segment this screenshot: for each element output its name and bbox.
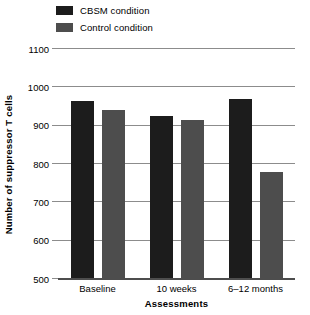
bar — [229, 99, 252, 279]
y-tick-label: 500 — [33, 274, 49, 284]
bar — [71, 101, 94, 279]
y-tick-label: 800 — [33, 159, 49, 169]
bar-series-container — [58, 49, 295, 279]
legend-swatch-control — [56, 23, 73, 32]
legend-item-label: Control condition — [80, 22, 153, 33]
bar — [102, 110, 125, 279]
legend-item: CBSM condition — [56, 2, 256, 19]
y-tick-label: 600 — [33, 236, 49, 246]
y-tick-label: 700 — [33, 198, 49, 208]
legend-swatch-cbsm — [56, 6, 73, 15]
y-tick-label: 1100 — [29, 44, 49, 54]
legend-item: Control condition — [56, 19, 256, 36]
plot-area: 50060070080090010001100 — [58, 49, 295, 279]
y-tick-label: 1000 — [28, 83, 49, 93]
bar — [150, 116, 173, 279]
bar — [181, 120, 204, 279]
chart-legend: CBSM conditionControl condition — [56, 2, 256, 36]
bar-chart: CBSM conditionControl condition 50060070… — [0, 0, 310, 315]
x-tick-label: 6–12 months — [228, 284, 283, 294]
y-axis-title-text: Number of suppressor T cells — [4, 94, 15, 234]
y-axis-title: Number of suppressor T cells — [2, 49, 16, 279]
x-tick-label: 10 weeks — [156, 284, 196, 294]
y-tick-label: 900 — [33, 121, 49, 131]
x-axis-line — [58, 278, 295, 280]
legend-item-label: CBSM condition — [80, 5, 150, 16]
bar — [260, 172, 283, 279]
x-axis-title: Assessments — [58, 298, 295, 309]
x-tick-label: Baseline — [79, 284, 115, 294]
